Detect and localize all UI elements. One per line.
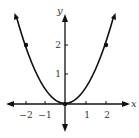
x-axis xyxy=(6,101,130,107)
curve-left-arrow-icon xyxy=(14,13,19,20)
y-axis-label: y xyxy=(56,5,63,16)
x-tick-label-2: 2 xyxy=(104,110,110,120)
y-axis-up-arrow-icon xyxy=(62,14,68,22)
y-axis-down-arrow-icon xyxy=(62,124,68,132)
point-neg2-2 xyxy=(24,43,28,47)
x-axis-right-arrow-icon xyxy=(122,101,130,107)
x-tick-label-minus1: −1 xyxy=(38,110,51,120)
x-tick-label-minus2: −2 xyxy=(19,110,32,120)
point-origin xyxy=(63,102,67,106)
point-2-2 xyxy=(104,43,108,47)
curve-right-arrow-icon xyxy=(111,13,116,20)
parabola-graph: x y −2 −1 1 2 1 2 xyxy=(0,0,139,138)
y-tick-label-1: 1 xyxy=(55,69,61,79)
y-axis xyxy=(62,14,68,132)
y-tick-label-2: 2 xyxy=(55,40,61,50)
x-axis-left-arrow-icon xyxy=(6,101,14,107)
x-axis-label: x xyxy=(131,98,137,109)
x-tick-label-1: 1 xyxy=(84,110,90,120)
